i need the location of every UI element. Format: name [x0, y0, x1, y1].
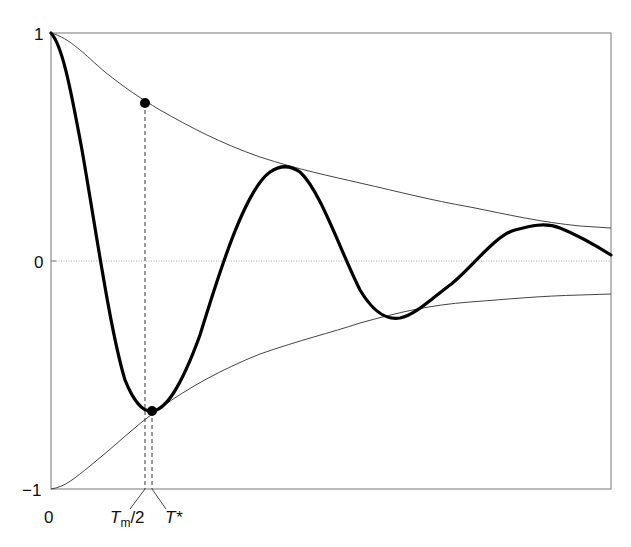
tstar-marker: [147, 406, 157, 416]
y-tick-label-0: 0: [34, 253, 43, 272]
x-tick-label-0: 0: [44, 508, 53, 527]
tm-half-leader: [130, 489, 145, 509]
tstar-leader: [152, 489, 166, 509]
damped-oscillation-curve: [51, 33, 611, 411]
damped-oscillation-chart: 1 0 −1 0 Tm/2 T*: [0, 0, 631, 547]
y-tick-label-1: 1: [34, 25, 43, 44]
x-tick-label-tm-half: Tm/2: [110, 508, 145, 530]
y-tick-label-minus1: −1: [22, 481, 41, 500]
lower-envelope-curve: [51, 294, 611, 489]
x-tick-label-tstar: T*: [165, 508, 183, 527]
tm-half-marker: [140, 98, 150, 108]
upper-envelope-curve: [51, 33, 611, 228]
